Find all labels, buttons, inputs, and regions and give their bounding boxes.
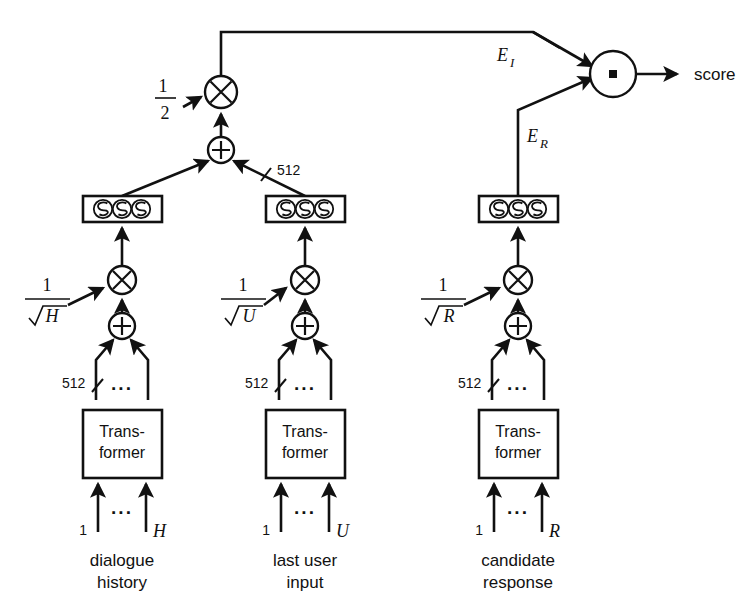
dim-512-central: 512 <box>277 162 301 178</box>
edge-token-last-response <box>527 340 544 400</box>
dots-encoder-userinput: ··· <box>294 378 316 399</box>
dots-input-userinput: ··· <box>294 502 316 523</box>
transformer-label-line2-response: former <box>495 444 542 461</box>
transformer-label-line1-userinput: Trans- <box>282 423 328 440</box>
transformer-box-history: Trans- former <box>83 410 162 478</box>
edge-token-last-userinput <box>314 340 331 400</box>
scale-radicand-userinput: U <box>243 306 257 326</box>
transformer-label-line2-userinput: former <box>282 444 329 461</box>
dots-input-response: ··· <box>507 502 529 523</box>
dots-encoder-response: ··· <box>507 378 529 399</box>
transformer-box-userinput: Trans- former <box>266 410 345 478</box>
dim-512-history: 512 <box>62 375 86 391</box>
caption-line2-userinput: input <box>287 573 324 592</box>
scale-multiply-response <box>504 266 532 294</box>
sum-add-node-userinput <box>292 313 318 339</box>
edge-history-to-add <box>122 161 208 196</box>
label-E-R-sub: R <box>539 136 548 151</box>
edge-input-embedding <box>221 32 592 75</box>
scale-numerator-history: 1 <box>43 275 52 295</box>
dots-encoder-history: ··· <box>111 378 133 399</box>
caption-line2-history: history <box>97 573 148 592</box>
token-last-history: H <box>152 521 167 541</box>
token-last-userinput: U <box>336 521 350 541</box>
caption-line1-userinput: last user <box>273 551 338 570</box>
architecture-diagram: score E I E R 1 2 <box>0 0 739 599</box>
dim-512-response: 512 <box>458 375 482 391</box>
label-E-I-base: E <box>496 45 508 65</box>
edge-scale-into-multiply-userinput <box>264 288 286 305</box>
sigmoid-box-userinput <box>266 196 345 222</box>
column-last-user-input: 1 U ··· 512 Trans- former <box>221 196 350 592</box>
scale-multiply-history <box>108 266 136 294</box>
token-first-history: 1 <box>79 522 87 538</box>
scale-label-response: 1 R <box>421 275 466 326</box>
scale-multiply-userinput <box>291 266 319 294</box>
column-candidate-response: 1 R ··· 512 Trans- former <box>421 196 560 592</box>
central-add-node <box>208 137 234 163</box>
dot-product-node <box>590 51 636 97</box>
score-label: score <box>694 65 736 84</box>
column-dialogue-history: 1 H ··· 512 <box>25 196 167 592</box>
dots-input-history: ··· <box>111 502 133 523</box>
edge-scale-into-multiply-response <box>464 288 499 305</box>
caption-line1-response: candidate <box>481 551 555 570</box>
token-last-response: R <box>548 521 560 541</box>
scale-half-label: 1 2 <box>155 76 176 123</box>
scale-label-history: 1 H <box>25 275 70 326</box>
scale-half-multiply-node <box>205 76 237 108</box>
transformer-box-response: Trans- former <box>479 410 558 478</box>
scale-numerator-userinput: 1 <box>239 275 248 295</box>
transformer-label-line1-history: Trans- <box>99 423 145 440</box>
dim-512-userinput: 512 <box>245 375 269 391</box>
edge-half-into-multiply <box>183 97 201 107</box>
transformer-label-line2-history: former <box>99 444 146 461</box>
edge-token-last-history <box>131 340 148 400</box>
token-first-userinput: 1 <box>262 522 270 538</box>
half-numerator: 1 <box>159 76 168 96</box>
token-first-response: 1 <box>475 522 483 538</box>
scale-label-userinput: 1 U <box>221 275 266 326</box>
sigmoid-box-history <box>83 196 162 222</box>
label-response-embedding: E R <box>526 126 548 151</box>
figure-canvas: score E I E R 1 2 <box>0 0 739 599</box>
caption-line2-response: response <box>483 573 553 592</box>
sum-add-node-history <box>109 313 135 339</box>
label-input-embedding: E I <box>496 45 515 70</box>
half-denominator: 2 <box>161 103 170 123</box>
scale-radicand-response: R <box>443 306 455 326</box>
transformer-label-line1-response: Trans- <box>495 423 541 440</box>
scale-numerator-response: 1 <box>439 275 448 295</box>
label-E-R-base: E <box>526 126 538 146</box>
edge-scale-into-multiply-history <box>68 288 103 305</box>
sum-add-node-response <box>505 313 531 339</box>
label-E-I-sub: I <box>509 55 515 70</box>
sigmoid-box-response <box>479 196 558 222</box>
scale-radicand-history: H <box>45 306 60 326</box>
caption-line1-history: dialogue <box>90 551 154 570</box>
